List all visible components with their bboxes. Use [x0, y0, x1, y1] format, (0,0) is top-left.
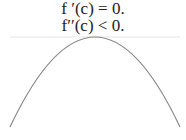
local-maximum-diagram — [0, 0, 186, 140]
concave-down-curve — [10, 37, 180, 127]
